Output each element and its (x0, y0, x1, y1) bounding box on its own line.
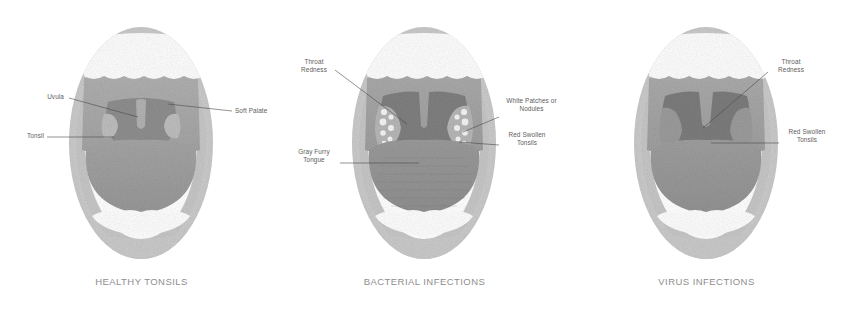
panel-bacterial-infections: Throat Redness Gray Furry Tongue White P… (283, 0, 566, 316)
label-white-patches-or-nodules: White Patches or Nodules (497, 97, 566, 113)
uvula (136, 99, 146, 129)
label-gray-furry-tongue: Gray Furry Tongue (288, 148, 340, 164)
panel-healthy-tonsils: Uvula Tonsil Soft Palate HEALTHY TONSILS (0, 0, 283, 316)
upper-teeth (645, 33, 769, 79)
upper-teeth (80, 33, 204, 79)
label-soft-palate: Soft Palate (235, 107, 285, 115)
label-uvula: Uvula (22, 93, 64, 101)
label-red-swollen-tonsils: Red Swollen Tonsils (498, 131, 556, 147)
label-red-swollen-tonsils: Red Swollen Tonsils (778, 128, 836, 144)
label-tonsil: Tonsil (10, 132, 44, 140)
caption-healthy-tonsils: HEALTHY TONSILS (0, 276, 283, 287)
caption-bacterial-infections: BACTERIAL INFECTIONS (283, 276, 566, 287)
label-throat-redness: Throat Redness (291, 58, 337, 74)
tonsil-comparison-figure: Uvula Tonsil Soft Palate HEALTHY TONSILS (0, 0, 848, 316)
caption-virus-infections: VIRUS INFECTIONS (565, 276, 848, 287)
upper-teeth (363, 33, 487, 79)
label-throat-redness: Throat Redness (768, 58, 814, 74)
panel-virus-infections: Throat Redness Red Swollen Tonsils VIRUS… (565, 0, 848, 316)
